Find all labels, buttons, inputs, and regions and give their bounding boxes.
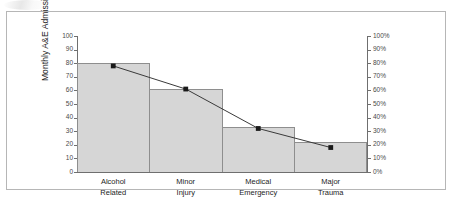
y-axis-right-line [367, 36, 368, 173]
chart-frame: Monthly A&E Admissions 01020304050607080… [6, 11, 446, 190]
y-axis-left-tick-label: 20 [39, 141, 73, 148]
x-axis-category-label: MedicalEmergency [222, 177, 295, 197]
y-axis-right-tick-label: 60% [373, 87, 413, 94]
y-axis-right-tick [368, 158, 371, 159]
line-marker [256, 126, 261, 131]
chart-screenshot: Monthly A&E Admissions 01020304050607080… [0, 0, 454, 197]
x-axis-category-label-line: Related [77, 188, 150, 197]
x-axis-category-label-line: Medical [222, 177, 295, 188]
y-axis-left-tick-label: 0 [39, 169, 73, 176]
x-axis-category-label-line: Injury [150, 188, 223, 197]
y-axis-right-tick [368, 63, 371, 64]
cumulative-line [113, 66, 331, 148]
cumulative-line-series [77, 36, 367, 172]
y-axis-right-tick [368, 145, 371, 146]
x-axis-category-label: MinorInjury [150, 177, 223, 197]
y-axis-left-tick-label: 80 [39, 60, 73, 67]
line-marker [328, 145, 333, 150]
x-axis-category-label-line: Major [295, 177, 368, 188]
y-axis-right-tick-label: 30% [373, 128, 413, 135]
line-marker [183, 87, 188, 92]
y-axis-right-tick [368, 77, 371, 78]
y-axis-right-tick [368, 104, 371, 105]
x-axis-category-label-line: Minor [150, 177, 223, 188]
y-axis-left-tick-label: 70 [39, 73, 73, 80]
x-axis-category-labels: AlcoholRelatedMinorInjuryMedicalEmergenc… [77, 177, 367, 197]
y-axis-right-tick [368, 118, 371, 119]
line-marker [111, 64, 116, 69]
y-axis-left-tick-label: 30 [39, 128, 73, 135]
y-axis-right-tick-label: 100% [373, 33, 413, 40]
y-axis-right-tick-label: 70% [373, 73, 413, 80]
y-axis-right-tick [368, 90, 371, 91]
y-axis-right-tick [368, 131, 371, 132]
y-axis-right-tick-label: 0% [373, 169, 413, 176]
y-axis-left-tick-label: 100 [39, 33, 73, 40]
y-axis-left-tick-label: 10 [39, 155, 73, 162]
y-axis-left-tick-label: 40 [39, 114, 73, 121]
y-axis-left-tick-label: 50 [39, 101, 73, 108]
y-axis-right-tick [368, 172, 371, 173]
y-axis-right-tick-label: 40% [373, 114, 413, 121]
y-axis-right-tick-label: 20% [373, 141, 413, 148]
y-axis-right-tick-label: 80% [373, 60, 413, 67]
x-axis-category-label: MajorTrauma [295, 177, 368, 197]
y-axis-left-tick-label: 60 [39, 87, 73, 94]
y-axis-right-tick-label: 10% [373, 155, 413, 162]
x-axis-category-label-line: Alcohol [77, 177, 150, 188]
plot-area [77, 36, 367, 172]
y-axis-right-tick-label: 90% [373, 46, 413, 53]
x-axis-category-label-line: Trauma [295, 188, 368, 197]
y-axis-right-tick-label: 50% [373, 101, 413, 108]
x-axis-category-label: AlcoholRelated [77, 177, 150, 197]
x-axis-line [77, 172, 368, 173]
y-axis-left-tick-label: 90 [39, 46, 73, 53]
y-axis-right-tick [368, 50, 371, 51]
y-axis-right-tick [368, 36, 371, 37]
x-axis-category-label-line: Emergency [222, 188, 295, 197]
